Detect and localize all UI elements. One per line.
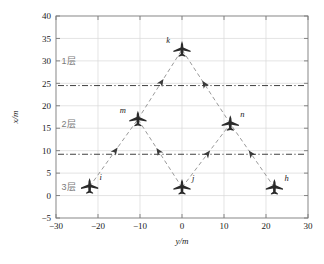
x-tick-label-5: 20 xyxy=(262,221,272,231)
y-tick-label-5: 20 xyxy=(42,101,52,111)
aircraft-formation-chart: kmnijh 1层2层3层 −30−20−100102030 −50510152… xyxy=(0,0,324,264)
x-tick-label-6: 30 xyxy=(304,221,314,231)
x-tick-label-0: −30 xyxy=(49,221,64,231)
aircraft-label-k: k xyxy=(166,35,170,45)
layer-label-3: 3层 xyxy=(62,182,76,192)
x-tick-label-1: −20 xyxy=(91,221,106,231)
aircraft-label-n: n xyxy=(240,109,244,119)
y-tick-label-4: 15 xyxy=(42,123,52,133)
y-tick-label-1: 0 xyxy=(47,191,52,201)
y-tick-label-2: 5 xyxy=(47,168,52,178)
y-tick-label-7: 30 xyxy=(42,56,52,66)
y-axis-title: x/m xyxy=(10,110,20,124)
y-tick-label-6: 25 xyxy=(42,79,52,89)
y-tick-label-8: 35 xyxy=(42,34,52,44)
layer-label-1: 1层 xyxy=(62,56,76,66)
x-axis-title: y/m xyxy=(175,236,189,246)
layer-label-2: 2层 xyxy=(62,119,76,129)
x-tick-label-4: 10 xyxy=(220,221,230,231)
y-tick-label-3: 10 xyxy=(42,146,52,156)
y-tick-label-9: 40 xyxy=(42,11,52,21)
x-tick-label-2: −10 xyxy=(133,221,148,231)
y-tick-label-0: −5 xyxy=(41,213,51,223)
aircraft-label-m: m xyxy=(120,105,126,115)
x-tick-label-3: 0 xyxy=(180,221,185,231)
aircraft-label-h: h xyxy=(284,173,288,183)
